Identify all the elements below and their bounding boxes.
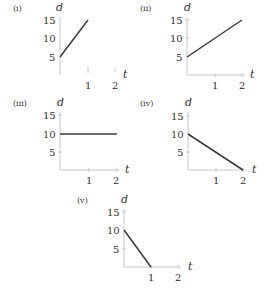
y-tick-label: 5 [49,147,55,158]
y-axis-label: d [184,1,191,14]
y-axis-label: d [57,96,64,109]
x-tick-label: 1 [86,175,92,186]
data-line [187,20,242,57]
x-tick-label: 1 [212,80,218,91]
y-tick-label: 15 [171,111,184,122]
y-tick-label: 5 [176,52,182,63]
y-tick-label: 15 [43,15,56,26]
y-axis-label: d [185,96,192,109]
y-tick-label: 5 [177,147,183,158]
y-tick-label: 15 [43,110,56,121]
x-axis-label: t [123,68,128,81]
panel-ii: (ii) d 15 10 5 1 2 t [140,1,255,91]
data-line [60,20,88,57]
y-tick-label: 5 [49,52,55,63]
x-axis-label: t [125,163,130,176]
distance-time-graphs: (i) d 15 10 5 1 2 t (ii) d 15 10 5 1 2 t… [0,0,272,293]
data-line [124,230,151,267]
panel-label: (iv) [140,99,153,108]
data-line [188,134,243,170]
x-axis-label: t [250,68,255,81]
x-axis-label: t [188,260,193,273]
y-tick-label: 10 [171,129,184,140]
panel-label: (i) [13,4,22,13]
y-tick-label: 15 [170,15,183,26]
x-tick-label: 2 [175,272,181,283]
y-axis-label: d [56,1,63,14]
x-axis-label: t [252,163,257,176]
panel-i: (i) d 15 10 5 1 2 t [13,1,128,91]
panel-v: (v) d 15 10 5 1 2 t [77,193,193,283]
panel-iv: (iv) d 15 10 5 1 2 t [140,96,257,186]
y-tick-label: 15 [107,207,120,218]
x-tick-label: 2 [240,175,246,186]
y-tick-label: 10 [43,33,56,44]
x-tick-label: 2 [113,175,119,186]
panel-label: (ii) [140,4,151,13]
y-tick-label: 10 [170,33,183,44]
x-tick-label: 1 [85,80,91,91]
y-tick-label: 10 [43,129,56,140]
x-tick-label: 2 [239,80,245,91]
x-tick-label: 2 [112,80,118,91]
x-tick-label: 1 [213,175,219,186]
y-tick-label: 10 [107,225,120,236]
y-tick-label: 5 [113,244,119,255]
panel-iii: (iii) d 15 10 5 1 2 t [13,96,130,186]
panel-label: (v) [77,196,88,205]
y-axis-label: d [121,193,128,206]
x-tick-label: 1 [148,272,154,283]
panel-label: (iii) [13,99,27,108]
